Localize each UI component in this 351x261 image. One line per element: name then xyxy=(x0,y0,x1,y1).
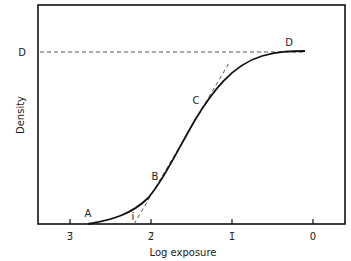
point-label-d: D xyxy=(285,37,293,48)
point-label-a: A xyxy=(85,208,92,219)
x-tick-label: 0 xyxy=(310,231,316,242)
characteristic-curve-chart: 3̄ 2̄ 1̄ 0 Log exposure Density D A B C … xyxy=(0,0,351,261)
x-axis-title: Log exposure xyxy=(150,247,217,258)
point-label-i: i xyxy=(132,211,135,222)
y-d-label: D xyxy=(18,47,26,58)
x-tick-label: 1̄ xyxy=(229,231,235,242)
point-label-b: B xyxy=(152,171,159,182)
plot-frame xyxy=(38,5,345,224)
y-axis-title: Density xyxy=(15,96,26,134)
x-tick-label: 2̄ xyxy=(148,231,154,242)
characteristic-curve xyxy=(88,51,305,224)
point-label-c: C xyxy=(193,95,200,106)
x-tick-label: 3̄ xyxy=(67,231,73,242)
